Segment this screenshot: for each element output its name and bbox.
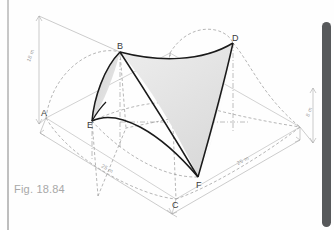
vertex-label-F: F xyxy=(196,180,202,190)
dimension-height-left: 18 m xyxy=(25,16,120,124)
dimension-label-base-left: 25 m xyxy=(101,163,115,174)
dimension-label-height-left: 18 m xyxy=(25,48,35,62)
dimension-label-height-right: 8 m xyxy=(304,106,313,117)
base-dimension-outline xyxy=(40,118,300,217)
vertex-label-C: C xyxy=(172,200,179,210)
vertex-label-A: A xyxy=(41,108,47,118)
dimension-label-base-right: 25 m xyxy=(236,155,250,166)
dimension-height-right: 8 m xyxy=(300,88,316,143)
saddle-surfaces xyxy=(92,43,233,177)
figure-caption: Fig. 18.84 xyxy=(14,183,65,195)
vertex-label-B: B xyxy=(117,41,123,51)
surface-left-panel xyxy=(92,52,120,121)
vertex-label-E: E xyxy=(87,120,93,130)
vertex-label-D: D xyxy=(232,33,239,43)
vertical-scrollbar-track[interactable] xyxy=(316,0,334,230)
page-canvas: 18 m 8 m 25 m 25 m xyxy=(0,0,334,230)
geometry-figure: 18 m 8 m 25 m 25 m xyxy=(0,0,334,230)
vertical-scrollbar-thumb[interactable] xyxy=(322,22,331,227)
